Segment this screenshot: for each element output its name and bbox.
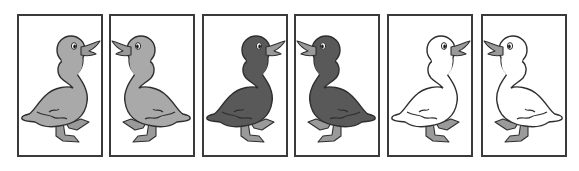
duckling-icon bbox=[483, 16, 565, 155]
duckling-icon bbox=[296, 16, 378, 155]
duckling-card: white duckling facing right bbox=[387, 14, 473, 157]
duckling-card: gray duckling facing right bbox=[17, 14, 103, 157]
duckling-icon bbox=[389, 16, 471, 155]
duckling-card: dark duckling facing left bbox=[294, 14, 380, 157]
duckling-icon bbox=[204, 16, 286, 155]
duckling-icon bbox=[19, 16, 101, 155]
duckling-card: dark duckling facing right bbox=[202, 14, 288, 157]
duckling-card: white duckling facing left bbox=[481, 14, 567, 157]
duckling-card: gray duckling facing left bbox=[109, 14, 195, 157]
duckling-icon bbox=[111, 16, 193, 155]
